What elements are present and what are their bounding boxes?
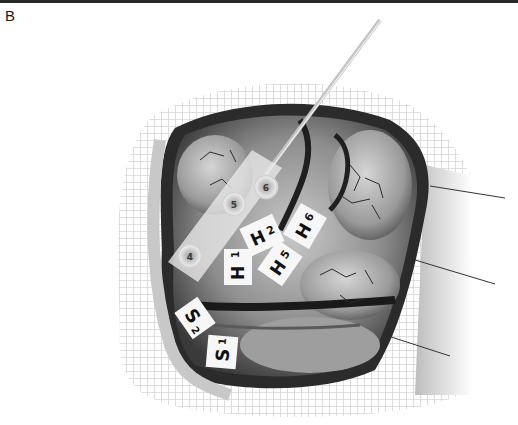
electrode-contact-5: 5: [222, 192, 246, 216]
svg-text:S: S: [211, 348, 233, 363]
svg-text:5: 5: [231, 200, 237, 210]
svg-text:1: 1: [230, 251, 241, 258]
svg-text:1: 1: [217, 338, 229, 346]
surgical-illustration: 6 5 4 H 1 H 2 H 5 H 6 S 2 S 1: [0, 0, 518, 425]
label-h1: H 1: [224, 249, 252, 285]
svg-text:4: 4: [187, 252, 193, 262]
electrode-contact-4: 4: [178, 244, 202, 268]
svg-text:6: 6: [263, 183, 269, 193]
label-s1: S 1: [206, 335, 239, 369]
electrode-contact-6: 6: [254, 175, 278, 199]
svg-text:H: H: [228, 266, 248, 280]
